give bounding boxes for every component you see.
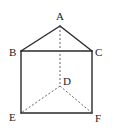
vertex-label-D: D [63,75,71,87]
edge-DF-hidden [60,86,92,113]
vertex-label-C: C [95,46,102,58]
edge-DE-hidden [21,86,60,113]
prism-diagram: A B C D E F [0,0,114,130]
edge-AC [60,26,92,51]
vertex-label-F: F [95,112,101,124]
vertex-label-A: A [56,10,64,22]
diagram-canvas: A B C D E F [0,0,114,130]
edge-AB [21,26,60,51]
vertex-label-B: B [9,46,16,58]
vertex-label-E: E [9,111,16,123]
